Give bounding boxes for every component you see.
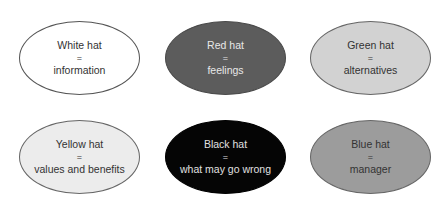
equals-sign: = xyxy=(77,53,82,64)
hat-title: Black hat xyxy=(204,138,247,152)
equals-sign: = xyxy=(368,152,373,163)
hat-meaning: what may go wrong xyxy=(180,163,271,177)
hat-meaning: feelings xyxy=(207,64,243,78)
hat-title: Blue hat xyxy=(351,138,390,152)
equals-sign: = xyxy=(223,152,228,163)
equals-sign: = xyxy=(223,53,228,64)
hat-meaning: information xyxy=(54,64,106,78)
blue-hat-ellipse: Blue hat = manager xyxy=(310,120,431,194)
red-hat-ellipse: Red hat = feelings xyxy=(165,21,286,95)
hat-title: Red hat xyxy=(207,39,244,53)
hat-meaning: manager xyxy=(350,163,391,177)
hat-title: Yellow hat xyxy=(56,138,103,152)
white-hat-ellipse: White hat = information xyxy=(19,21,140,95)
hat-meaning: alternatives xyxy=(344,64,398,78)
equals-sign: = xyxy=(77,152,82,163)
hat-meaning: values and benefits xyxy=(34,163,124,177)
equals-sign: = xyxy=(368,53,373,64)
yellow-hat-ellipse: Yellow hat = values and benefits xyxy=(19,120,140,194)
green-hat-ellipse: Green hat = alternatives xyxy=(310,21,431,95)
hat-title: White hat xyxy=(57,39,101,53)
hat-title: Green hat xyxy=(347,39,394,53)
black-hat-ellipse: Black hat = what may go wrong xyxy=(165,120,286,194)
